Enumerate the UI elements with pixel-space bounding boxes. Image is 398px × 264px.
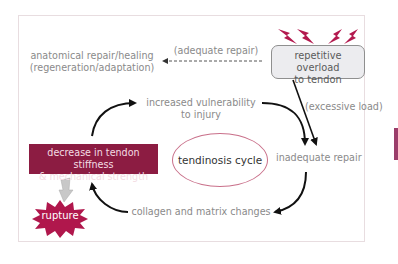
excessive-load-label: (excessive load)	[305, 101, 375, 113]
decrease-to-vulnerability-arrow	[92, 103, 135, 136]
vulnerability-to-repair-arrow	[262, 103, 305, 144]
tendinosis-cycle-center: tendinosis cycle	[172, 133, 268, 187]
decrease-line1: decrease in tendon stiffness	[29, 147, 158, 171]
anatomical-repair-line1: anatomical repair/healing	[28, 50, 156, 62]
lightning-bolt-icons	[278, 29, 358, 44]
collagen-to-decrease-arrow	[92, 184, 128, 212]
overload-line2: to tendon	[272, 74, 364, 86]
increased-vulnerability-node: increased vulnerability to injury	[140, 97, 262, 121]
repetitive-overload-node: repetitive overload to tendon	[271, 45, 365, 79]
inadequate-repair-node: inadequate repair	[276, 152, 356, 164]
vulnerability-line1: increased vulnerability	[140, 97, 262, 109]
anatomical-repair-node: anatomical repair/healing (regeneration/…	[28, 50, 156, 74]
vulnerability-line2: to injury	[140, 109, 262, 121]
repair-to-collagen-arrow	[275, 172, 306, 212]
cycle-label: tendinosis cycle	[178, 154, 262, 166]
decrease-stiffness-node: decrease in tendon stiffness & mechanica…	[29, 144, 158, 174]
adequate-repair-label: (adequate repair)	[170, 45, 262, 57]
rupture-label: rupture	[32, 210, 88, 222]
anatomical-repair-line2: (regeneration/adaptation)	[28, 62, 156, 74]
collagen-changes-node: collagen and matrix changes	[131, 206, 271, 218]
diagram-arrows	[0, 0, 398, 264]
decrease-line2: & mechanical strength	[29, 171, 158, 183]
overload-line1: repetitive overload	[272, 50, 364, 74]
